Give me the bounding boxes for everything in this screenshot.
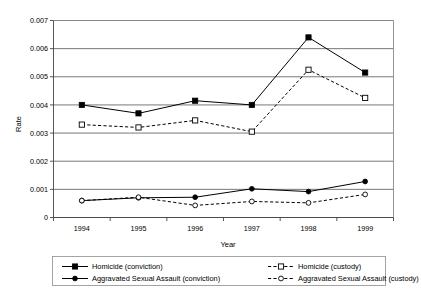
data-point-marker [193,98,198,103]
y-tick-label: 0.005 [30,72,48,81]
data-point-marker [79,198,84,203]
line-chart-figure: 00.0010.0020.0030.0040.0050.0060.007 199… [0,0,421,292]
x-tick-label: 1996 [187,224,203,233]
data-point-marker [193,203,198,208]
x-tick-label: 1994 [74,224,90,233]
data-point-marker [136,111,141,116]
x-axis-title: Year [220,240,236,249]
data-point-marker [306,200,311,205]
y-tick-label: 0.001 [30,185,48,194]
chart-background [0,0,421,292]
chart-canvas: 00.0010.0020.0030.0040.0050.0060.007 199… [0,0,421,292]
data-point-marker [136,125,141,130]
data-point-marker [363,179,368,184]
legend-label: Homicide (custody) [298,262,361,271]
data-point-marker [249,199,254,204]
data-point-marker [79,102,84,107]
y-tick-label: 0.007 [30,16,48,25]
data-point-marker [306,35,311,40]
data-point-marker [193,195,198,200]
y-tick-label: 0.002 [30,157,48,166]
data-point-marker [363,192,368,197]
data-point-marker [279,276,284,281]
y-tick-label: 0.004 [30,101,48,110]
data-point-marker [278,264,283,269]
x-tick-label: 1997 [244,224,260,233]
data-point-marker [73,276,78,281]
data-point-marker [363,95,368,100]
data-point-marker [306,67,311,72]
data-point-marker [306,189,311,194]
x-tick-label: 1999 [357,224,373,233]
y-axis-title: Rate [14,116,23,132]
data-point-marker [72,264,77,269]
data-point-marker [363,70,368,75]
x-tick-label: 1998 [301,224,317,233]
data-point-marker [249,102,254,107]
y-tick-label: 0.006 [30,44,48,53]
legend-label: Homicide (conviction) [92,262,163,271]
x-tick-label: 1995 [131,224,147,233]
data-point-marker [249,129,254,134]
y-tick-label: 0 [44,213,48,222]
data-point-marker [249,186,254,191]
data-point-marker [136,195,141,200]
y-tick-label: 0.003 [30,129,48,138]
data-point-marker [193,118,198,123]
legend-label: Aggravated Sexual Assault (custody) [298,274,419,283]
data-point-marker [79,122,84,127]
legend-label: Aggravated Sexual Assault (conviction) [92,274,220,283]
